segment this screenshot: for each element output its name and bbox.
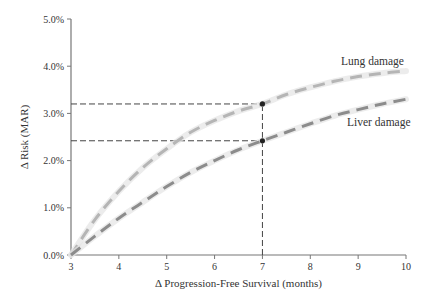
- lung-damage-line: [71, 71, 406, 255]
- y-tick-label: 3.0%: [43, 108, 64, 119]
- x-tick-label: 3: [69, 261, 74, 272]
- y-tick-label: 0.0%: [43, 250, 64, 261]
- y-axis-title: Δ Risk (MAR): [18, 104, 31, 169]
- chart: 0.0%1.0%2.0%3.0%4.0%5.0%345678910Δ Progr…: [0, 0, 429, 306]
- series-label-lung: Lung damage: [341, 55, 404, 68]
- x-tick-label: 9: [356, 261, 361, 272]
- y-tick-label: 4.0%: [43, 61, 64, 72]
- x-tick-label: 10: [401, 261, 411, 272]
- x-tick-label: 8: [308, 261, 313, 272]
- x-tick-label: 5: [164, 261, 169, 272]
- x-axis-title: Δ Progression-Free Survival (months): [155, 277, 322, 290]
- plot-area: 0.0%1.0%2.0%3.0%4.0%5.0%345678910Δ Progr…: [18, 14, 411, 291]
- x-tick-label: 7: [260, 261, 265, 272]
- lung-damage-halo: [71, 71, 406, 255]
- data-point-marker: [260, 138, 265, 143]
- x-tick-label: 4: [116, 261, 121, 272]
- series-label-liver: Liver damage: [347, 116, 411, 129]
- y-tick-label: 5.0%: [43, 14, 64, 25]
- x-tick-label: 6: [212, 261, 217, 272]
- y-tick-label: 2.0%: [43, 155, 64, 166]
- data-point-marker: [260, 101, 265, 106]
- y-tick-label: 1.0%: [43, 202, 64, 213]
